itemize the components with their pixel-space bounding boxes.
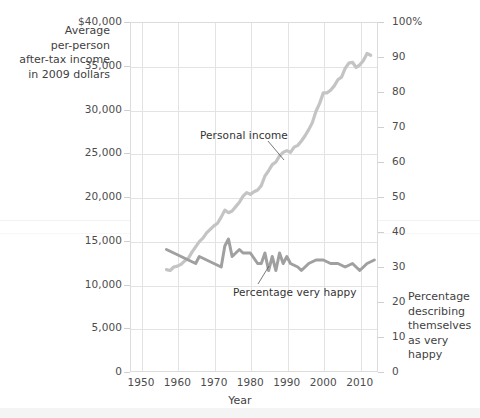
y-axis-left-tick-mark bbox=[124, 66, 130, 67]
gridline-vertical bbox=[142, 23, 143, 371]
y-axis-right-tick-mark bbox=[378, 127, 384, 128]
y-axis-right-title-line-1: Percentage bbox=[408, 290, 480, 305]
y-axis-right-tick-label: 90 bbox=[392, 50, 406, 62]
y-axis-left-tick-label: $40,000 bbox=[78, 15, 122, 27]
y-axis-left-tick-mark bbox=[124, 110, 130, 111]
gridline-horizontal bbox=[131, 67, 377, 68]
y-axis-left-tick-mark bbox=[124, 197, 130, 198]
annotation-personal-income: Personal income bbox=[200, 129, 288, 141]
y-axis-left-tick-mark bbox=[124, 372, 130, 373]
gridline-horizontal bbox=[131, 242, 377, 243]
annotation-percentage-very-happy: Percentage very happy bbox=[233, 286, 357, 298]
gridline-horizontal bbox=[131, 198, 377, 199]
y-axis-right-title-line-2: describing bbox=[408, 305, 480, 320]
x-axis-title: Year bbox=[0, 394, 480, 407]
y-axis-left-tick-label: 20,000 bbox=[85, 190, 122, 202]
gridline-vertical bbox=[178, 23, 179, 371]
y-axis-left-tick-label: 30,000 bbox=[85, 103, 122, 115]
y-axis-right-tick-label: 0 bbox=[392, 365, 399, 377]
y-axis-right-tick-label: 40 bbox=[392, 225, 406, 237]
y-axis-right-tick-mark bbox=[378, 232, 384, 233]
gridline-vertical bbox=[251, 23, 252, 371]
y-axis-right-tick-mark bbox=[378, 57, 384, 58]
y-axis-right-tick-label: 60 bbox=[392, 155, 406, 167]
y-axis-left-tick-mark bbox=[124, 153, 130, 154]
y-axis-right-tick-mark bbox=[378, 337, 384, 338]
y-axis-right-tick-label: 80 bbox=[392, 85, 406, 97]
gridline-horizontal bbox=[131, 111, 377, 112]
gridline-vertical bbox=[215, 23, 216, 371]
y-axis-right-tick-mark bbox=[378, 162, 384, 163]
y-axis-left-title-line-2: per-person bbox=[8, 39, 110, 54]
y-axis-left-tick-mark bbox=[124, 22, 130, 23]
gridline-horizontal bbox=[131, 154, 377, 155]
y-axis-right-tick-mark bbox=[378, 372, 384, 373]
y-axis-right-tick-mark bbox=[378, 302, 384, 303]
y-axis-right-tick-label: 70 bbox=[392, 120, 406, 132]
y-axis-left-tick-label: 10,000 bbox=[85, 278, 122, 290]
y-axis-right-title: Percentage describing themselves as very… bbox=[408, 290, 480, 363]
y-axis-left-title: Average per-person after-tax income in 2… bbox=[8, 24, 110, 82]
y-axis-left-tick-mark bbox=[124, 328, 130, 329]
gridline-horizontal bbox=[131, 329, 377, 330]
y-axis-left-tick-label: 35,000 bbox=[85, 59, 122, 71]
y-axis-right-tick-label: 100% bbox=[392, 15, 422, 27]
gridline-vertical bbox=[324, 23, 325, 371]
y-axis-right-tick-mark bbox=[378, 22, 384, 23]
y-axis-left-tick-label: 15,000 bbox=[85, 234, 122, 246]
page-bottom-strip bbox=[0, 408, 480, 418]
y-axis-right-tick-mark bbox=[378, 197, 384, 198]
y-axis-right-tick-mark bbox=[378, 267, 384, 268]
y-axis-right-tick-label: 20 bbox=[392, 295, 406, 307]
y-axis-left-tick-mark bbox=[124, 241, 130, 242]
y-axis-right-title-line-3: themselves bbox=[408, 319, 480, 334]
y-axis-right-tick-mark bbox=[378, 92, 384, 93]
y-axis-left-tick-label: 25,000 bbox=[85, 146, 122, 158]
x-axis-tick-label: 2010 bbox=[335, 376, 385, 388]
y-axis-right-tick-label: 30 bbox=[392, 260, 406, 272]
y-axis-left-tick-mark bbox=[124, 285, 130, 286]
chart-figure: Average per-person after-tax income in 2… bbox=[0, 0, 480, 418]
y-axis-left-tick-label: 5,000 bbox=[91, 321, 122, 333]
plot-area bbox=[130, 22, 378, 372]
gridline-vertical bbox=[288, 23, 289, 371]
y-axis-right-tick-label: 50 bbox=[392, 190, 406, 202]
y-axis-right-title-line-4: as very happy bbox=[408, 334, 480, 363]
gridline-vertical bbox=[361, 23, 362, 371]
y-axis-right-tick-label: 10 bbox=[392, 330, 406, 342]
